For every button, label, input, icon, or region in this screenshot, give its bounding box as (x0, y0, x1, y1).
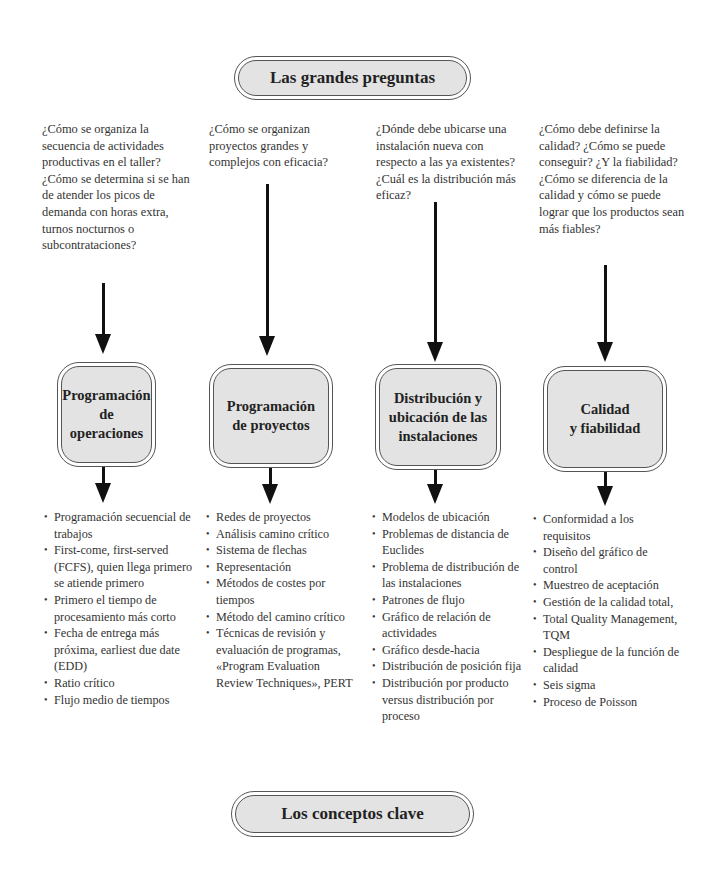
arrow-down-icon (95, 467, 111, 503)
concept-item: Total Quality Management, TQM (533, 611, 683, 644)
concepts-list-projects: Redes de proyectos Análisis camino críti… (206, 509, 356, 692)
concept-item: Métodos de costes por tiempos (206, 575, 356, 608)
concepts-list-quality: Conformidad a los requisitos Diseño del … (533, 511, 683, 710)
arrow-down-icon (427, 202, 443, 362)
concept-item: Gestión de la calidad total, (533, 594, 683, 611)
concept-item: Método del camino crítico (206, 609, 356, 626)
topic-facility-layout: Distribución y ubicación de las instalac… (375, 364, 501, 470)
topic-line: Programación (62, 386, 150, 405)
concept-item: Proceso de Poisson (533, 694, 683, 711)
concept-item: Problemas de distancia de Euclides (372, 526, 522, 559)
topic-line: de proyectos (227, 416, 315, 435)
concept-item: Análisis camino crítico (206, 526, 356, 543)
topic-line: Calidad (570, 400, 641, 419)
concept-item: Patrones de flujo (372, 592, 522, 609)
topic-line: y fiabilidad (570, 419, 641, 438)
concept-item: Gráfico de relación de actividades (372, 609, 522, 642)
topic-project-scheduling: Programación de proyectos (209, 364, 333, 468)
header-title: Las grandes preguntas (238, 60, 467, 96)
arrow-down-icon (95, 283, 111, 354)
concept-item: Flujo medio de tiempos (44, 692, 194, 709)
topic-quality-reliability: Calidad y fiabilidad (543, 366, 667, 472)
concept-item: Representación (206, 559, 356, 576)
concept-item: Modelos de ubicación (372, 509, 522, 526)
concept-item: Sistema de flechas (206, 542, 356, 559)
concept-item: Diseño del gráfico de control (533, 544, 683, 577)
concept-item: Técnicas de revisión y evaluación de pro… (206, 625, 356, 691)
concept-item: Fecha de entrega más próxima, earliest d… (44, 625, 194, 675)
topic-line: Distribución y (389, 389, 487, 408)
concept-item: Distribución por producto versus distrib… (372, 675, 522, 725)
concept-item: Ratio crítico (44, 675, 194, 692)
header-banner: Las grandes preguntas (234, 56, 471, 100)
concept-item: Redes de proyectos (206, 509, 356, 526)
concept-item: Seis sigma (533, 677, 683, 694)
arrow-down-icon (262, 468, 278, 504)
arrow-down-icon (597, 472, 613, 506)
arrow-down-icon (259, 184, 275, 356)
concept-item: First-come, first-served (FCFS), quien l… (44, 542, 194, 592)
question-facilities: ¿Dónde debe ubicarse una instalación nue… (376, 121, 526, 204)
question-operations: ¿Cómo se organiza la secuencia de activi… (42, 121, 192, 254)
arrow-down-icon (427, 470, 443, 504)
topic-line: de operaciones (62, 405, 150, 443)
footer-title: Los conceptos clave (235, 795, 470, 833)
concept-item: Muestreo de aceptación (533, 577, 683, 594)
concepts-list-operations: Programación secuencial de trabajos Firs… (44, 509, 194, 708)
topic-line: Programación (227, 397, 315, 416)
concept-item: Problema de distribución de las instalac… (372, 559, 522, 592)
concept-item: Distribución de posición fija (372, 658, 522, 675)
concept-item: Gráfico desde-hacia (372, 642, 522, 659)
concepts-list-facilities: Modelos de ubicación Problemas de distan… (372, 509, 522, 725)
footer-banner: Los conceptos clave (231, 791, 474, 837)
topic-operations-scheduling: Programación de operaciones (57, 362, 156, 467)
question-projects: ¿Cómo se organizan proyectos grandes y c… (209, 121, 354, 171)
concept-item: Programación secuencial de trabajos (44, 509, 194, 542)
arrow-down-icon (597, 265, 613, 362)
concept-item: Despliegue de la función de calidad (533, 644, 683, 677)
question-quality: ¿Cómo debe definirse la calidad? ¿Cómo s… (539, 121, 689, 237)
topic-line: instalaciones (389, 427, 487, 446)
concept-item: Primero el tiempo de procesamiento más c… (44, 592, 194, 625)
concept-item: Conformidad a los requisitos (533, 511, 683, 544)
topic-line: ubicación de las (389, 408, 487, 427)
